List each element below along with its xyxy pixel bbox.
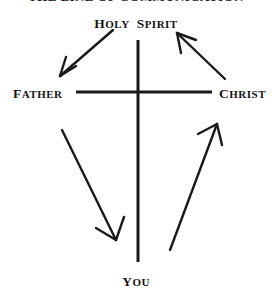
label-christ: CHRIST: [219, 84, 266, 102]
label-you-initial: Y: [122, 274, 132, 289]
label-christ-rest: HRIST: [229, 88, 266, 100]
label-father-rest: ATHER: [22, 88, 63, 100]
label-father-initial: F: [13, 86, 22, 101]
label-spirit-rest: PIRIT: [145, 18, 178, 30]
label-spirit-initial: S: [137, 16, 145, 31]
arrow-you-to-christ: [170, 124, 222, 250]
arrow-holy-spirit-to-father: [60, 30, 113, 76]
label-holy-spirit: HOLYSPIRIT: [0, 14, 272, 32]
label-holy-spirit-rest: OLY: [105, 18, 129, 30]
label-you: YOU: [0, 272, 272, 290]
diagram-page: THE LINE OF COMMUNICATION: [0, 0, 272, 295]
label-father: FATHER: [13, 84, 63, 102]
label-christ-initial: C: [219, 86, 229, 101]
label-holy-spirit-initial: H: [94, 16, 105, 31]
line-of-communication-diagram: [0, 0, 272, 295]
arrow-christ-to-holy-spirit: [177, 33, 225, 79]
label-you-rest: OU: [132, 276, 150, 288]
arrow-father-to-you: [62, 130, 124, 240]
